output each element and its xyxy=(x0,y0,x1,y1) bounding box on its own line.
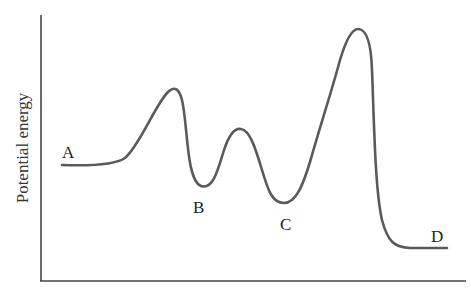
label-point-a: A xyxy=(62,143,75,162)
energy-diagram: Potential energy A B C D xyxy=(0,0,471,288)
label-point-c: C xyxy=(280,215,291,234)
label-point-b: B xyxy=(193,198,204,217)
energy-diagram-svg: Potential energy A B C D xyxy=(0,0,471,288)
label-point-d: D xyxy=(431,227,443,246)
energy-curve xyxy=(62,29,447,248)
y-axis-label: Potential energy xyxy=(13,92,32,203)
